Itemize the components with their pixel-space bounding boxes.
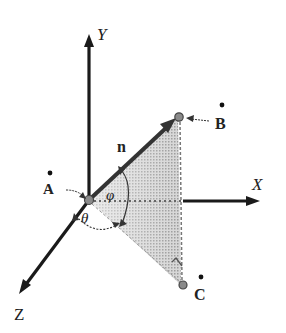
y-arrow-icon xyxy=(84,34,94,47)
y-axis xyxy=(84,34,94,200)
z-axis-label: Z xyxy=(14,305,24,324)
x-arrow-icon xyxy=(246,196,260,206)
point-a-dot xyxy=(48,171,53,176)
point-b-label: B xyxy=(215,115,226,132)
point-a-label: A xyxy=(43,181,54,197)
theta-angle-label: θ xyxy=(81,210,89,226)
point-c-label: C xyxy=(194,286,206,303)
y-axis-label: Y xyxy=(97,25,108,44)
x-axis-label: X xyxy=(251,175,263,194)
b-leader-arrow-icon xyxy=(186,115,194,122)
b-leader-line xyxy=(191,119,209,121)
diagram-canvas: Y X Z n A B C φ θ xyxy=(0,0,286,333)
vector-n-label: n xyxy=(117,138,126,155)
point-c-dot xyxy=(199,275,204,280)
z-axis xyxy=(19,200,89,294)
a-leader-arrow-icon xyxy=(79,192,86,199)
point-c-marker xyxy=(179,281,187,289)
point-b-dot xyxy=(220,103,225,108)
origin-marker xyxy=(85,196,94,205)
phi-angle-label: φ xyxy=(106,187,114,203)
point-b-marker xyxy=(175,113,183,121)
